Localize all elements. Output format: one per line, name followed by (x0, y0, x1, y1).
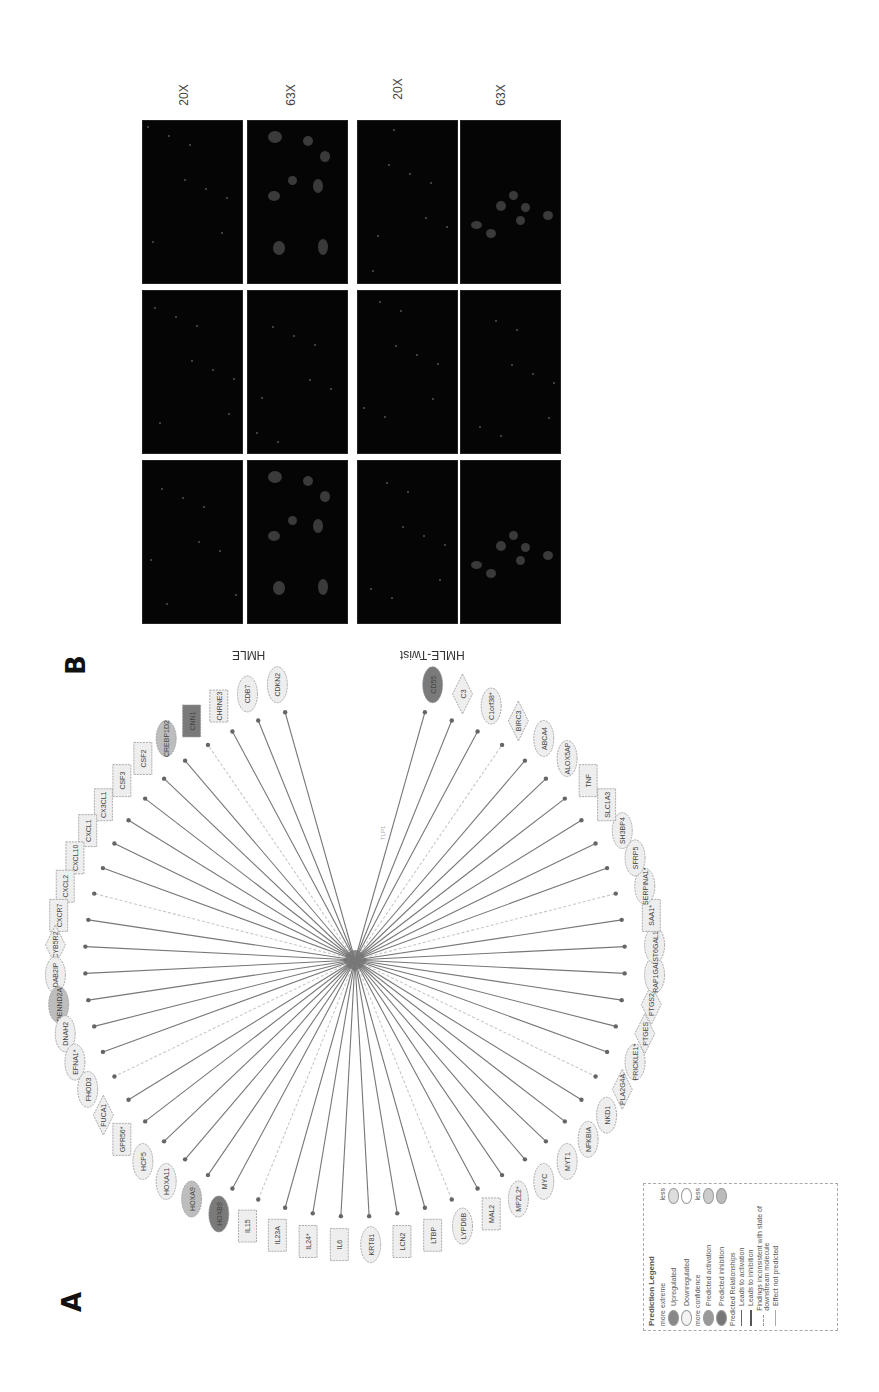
arrowhead-icon (162, 776, 166, 780)
network-node-label: CHRNE3 (216, 692, 223, 721)
fluorescence-speck (150, 559, 152, 561)
arrowhead-icon (579, 1097, 583, 1101)
fluorescence-speck (363, 407, 365, 409)
arrowhead-icon (126, 1097, 130, 1101)
cell-nucleus (521, 203, 530, 212)
fluorescence-speck (233, 378, 235, 380)
arrowhead-icon (605, 1050, 609, 1054)
cell-nucleus (268, 191, 280, 201)
fluorescence-speck (402, 526, 404, 528)
cell-nucleus (516, 556, 525, 565)
arrowhead-icon (523, 758, 527, 762)
cell-nucleus (486, 229, 496, 238)
network-edge (355, 960, 369, 1216)
cell-nucleus (318, 239, 328, 255)
network-node-label: PLA2G4A (619, 1073, 626, 1104)
fluorescence-speck (219, 550, 221, 552)
arrowhead-icon (544, 1139, 548, 1143)
fluorescence-speck (532, 373, 534, 375)
fluorescence-speck (425, 217, 427, 219)
network-node-label: NFKBIA (585, 1126, 592, 1152)
mag-label-twist-63x: 63X (494, 84, 508, 105)
cell-nucleus (516, 216, 525, 225)
arrowhead-icon (563, 796, 567, 800)
arrowhead-icon (311, 1211, 315, 1215)
network-node-label: CREBP1D2 (163, 720, 170, 757)
fluorescence-speck (272, 326, 274, 328)
network-node-label: SFRP5 (632, 846, 639, 869)
center-node-label: TLP1 (380, 825, 386, 840)
network-edge (145, 799, 355, 960)
fluorescence-speck (386, 482, 388, 484)
network-node-label: DNAH2 (62, 1022, 69, 1046)
fluorescence-speck (444, 544, 446, 546)
fluorescence-speck (221, 232, 223, 234)
fluorescence-speck (423, 535, 425, 537)
network-edge (355, 960, 565, 1121)
row-group-label-hmle-twist: HMLE-Twist (400, 648, 465, 662)
network-edge (355, 960, 525, 1159)
network-node-label: IL23A (274, 1226, 281, 1245)
cell-nucleus (496, 541, 506, 551)
arrowhead-icon (367, 1214, 371, 1218)
network-node-label: CYB5R2 (52, 931, 59, 958)
network-edge (185, 960, 355, 1159)
micrograph-panel (460, 460, 561, 624)
network-edge (341, 960, 355, 1216)
arrowhead-icon (605, 866, 609, 870)
arrowhead-icon (283, 1206, 287, 1210)
network-node-label: CNN1 (189, 711, 196, 730)
fluorescence-speck (175, 316, 177, 318)
legend-effect-not-predicted: Effect not predicted (772, 1246, 779, 1306)
network-edge (164, 960, 355, 1141)
fluorescence-speck (205, 188, 207, 190)
fluorescence-speck (182, 497, 184, 499)
arrowhead-icon (112, 841, 116, 845)
cell-nucleus (486, 569, 496, 578)
arrowhead-icon (544, 776, 548, 780)
arrowhead-icon (183, 758, 187, 762)
mag-label-twist-20x: 20X (391, 78, 405, 99)
network-node-label: NKD1 (604, 1106, 611, 1125)
arrowhead-icon (101, 866, 105, 870)
arrowhead-icon (579, 818, 583, 822)
cell-nucleus (320, 151, 330, 162)
network-node-label: TNF (585, 774, 592, 788)
fluorescence-speck (191, 360, 193, 362)
fluorescence-speck (309, 379, 311, 381)
arrowhead-icon (395, 1211, 399, 1215)
cell-nucleus (288, 176, 297, 185)
network-edge (85, 960, 355, 973)
cell-nucleus (313, 179, 323, 193)
fluorescence-speck (152, 241, 154, 243)
activation-light-swatch-icon (703, 1188, 714, 1204)
arrowhead-icon (614, 891, 618, 895)
network-node-label: CDB7 (244, 684, 251, 703)
downregulated-light-swatch-icon (681, 1188, 692, 1204)
network-node-label: MAL2 (488, 1205, 495, 1223)
arrowhead-icon (619, 918, 623, 922)
network-edge (232, 960, 355, 1189)
arrowhead-icon (614, 1024, 618, 1028)
fluorescence-speck (212, 369, 214, 371)
legend-confidence-label: more confidence (694, 1274, 701, 1326)
arrowhead-icon (622, 944, 626, 948)
fluorescence-speck (196, 325, 198, 327)
fluorescence-speck (432, 398, 434, 400)
cell-nucleus (543, 211, 553, 220)
fluorescence-speck (516, 329, 518, 331)
network-node-label: IL24* (305, 1233, 312, 1250)
prediction-legend: Prediction Legend more extremeless Upreg… (643, 1183, 838, 1331)
fluorescence-speck (384, 416, 386, 418)
fluorescence-speck (548, 417, 550, 419)
network-edge (85, 947, 355, 960)
network-node-label: LCN2 (399, 1232, 406, 1250)
micrograph-panel (460, 290, 561, 454)
network-edge (355, 844, 596, 960)
arrowhead-icon (256, 718, 260, 722)
cell-nucleus (521, 543, 530, 552)
network-node-label: ALOX5AP (564, 742, 571, 774)
network-node-label: PRICKLE1* (632, 1044, 639, 1081)
arrowhead-icon (206, 1173, 210, 1177)
network-node-label: PTGES (642, 1022, 649, 1046)
